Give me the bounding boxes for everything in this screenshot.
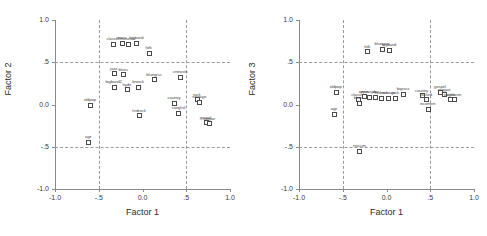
data-point-label: age bbox=[85, 134, 92, 139]
data-point bbox=[178, 75, 183, 80]
gridline-x-neg-half bbox=[99, 20, 100, 189]
x-axis-title-right: Factor 1 bbox=[299, 207, 474, 217]
data-point-label: folk bbox=[364, 44, 370, 49]
data-point bbox=[357, 101, 362, 106]
x-tick-1 bbox=[343, 189, 344, 192]
data-point bbox=[426, 107, 431, 112]
y-tick-0 bbox=[296, 20, 299, 21]
data-point-label: newage bbox=[192, 94, 206, 99]
y-ticklabel-0: 1.0 bbox=[265, 16, 293, 24]
y-ticklabel-0: 1.0 bbox=[21, 16, 49, 24]
plot-area-right: -1.0 -.5 0.0 .5 1.0 1.0 .5 0.0 -.5 -1.0 … bbox=[299, 20, 474, 189]
x-tick-0 bbox=[299, 189, 300, 192]
y-ticklabel-4: -1.0 bbox=[21, 185, 49, 193]
plot-area-left: -1.0 -.5 0.0 .5 1.0 1.0 .5 0.0 -.5 -1.0 … bbox=[55, 20, 230, 189]
scatter-panel-factor3: -1.0 -.5 0.0 .5 1.0 1.0 .5 0.0 -.5 -1.0 … bbox=[244, 0, 487, 236]
data-point bbox=[111, 42, 116, 47]
data-point-label: bigband2 bbox=[105, 79, 121, 84]
x-tick-1 bbox=[99, 189, 100, 192]
data-point-label: cntrwstn bbox=[173, 69, 188, 74]
y-axis-title-left: Factor 2 bbox=[3, 49, 13, 109]
data-point-label: hrdrock bbox=[132, 108, 145, 113]
x-tick-4 bbox=[474, 189, 475, 192]
data-point-label: incomert bbox=[420, 101, 435, 106]
data-point bbox=[365, 49, 370, 54]
data-point-label: hydn bbox=[122, 82, 131, 87]
y-ticklabel-3: -.5 bbox=[265, 143, 293, 151]
gridline-y-pos-half bbox=[299, 62, 474, 63]
data-point bbox=[207, 121, 212, 126]
data-point-label: bigrass bbox=[397, 86, 410, 91]
data-point bbox=[334, 90, 339, 95]
data-point-label: brwrck bbox=[132, 79, 144, 84]
x-tick-3 bbox=[186, 189, 187, 192]
x-tick-2 bbox=[143, 189, 144, 192]
data-point-label: conglstl bbox=[172, 105, 185, 110]
data-point bbox=[120, 41, 125, 46]
data-point bbox=[380, 47, 385, 52]
y-tick-2 bbox=[52, 105, 55, 106]
data-point bbox=[386, 96, 391, 101]
y-axis-spine bbox=[55, 20, 56, 189]
x-ticklabel-0: -1.0 bbox=[279, 194, 319, 202]
data-point bbox=[373, 95, 378, 100]
scatter-panel-factor2: -1.0 -.5 0.0 .5 1.0 1.0 .5 0.0 -.5 -1.0 … bbox=[0, 0, 243, 236]
data-point-label: jazz bbox=[110, 66, 117, 71]
y-axis-title-right: Factor 3 bbox=[247, 49, 257, 109]
y-tick-3 bbox=[52, 147, 55, 148]
x-ticklabel-3: .5 bbox=[166, 194, 206, 202]
data-point bbox=[367, 95, 372, 100]
figure-root: -1.0 -.5 0.0 .5 1.0 1.0 .5 0.0 -.5 -1.0 … bbox=[0, 0, 487, 236]
y-tick-2 bbox=[296, 105, 299, 106]
x-tick-2 bbox=[387, 189, 388, 192]
data-point bbox=[112, 71, 117, 76]
data-point-label: bigband bbox=[382, 42, 396, 47]
y-tick-0 bbox=[52, 20, 55, 21]
data-point bbox=[125, 87, 130, 92]
gridline-x-pos-half bbox=[186, 20, 187, 189]
y-ticklabel-3: -.5 bbox=[21, 143, 49, 151]
data-point-label: country bbox=[167, 95, 180, 100]
data-point bbox=[362, 94, 367, 99]
y-ticklabel-1: .5 bbox=[21, 58, 49, 66]
x-ticklabel-2: 0.0 bbox=[123, 194, 163, 202]
data-point bbox=[137, 113, 142, 118]
gridline-y-pos-half bbox=[55, 62, 230, 63]
y-tick-1 bbox=[296, 62, 299, 63]
x-tick-4 bbox=[230, 189, 231, 192]
data-point-label: oldpop bbox=[330, 84, 342, 89]
data-point bbox=[401, 92, 406, 97]
gridline-y-neg-half bbox=[299, 147, 474, 148]
x-tick-0 bbox=[55, 189, 56, 192]
data-point bbox=[126, 42, 131, 47]
x-ticklabel-2: 0.0 bbox=[367, 194, 407, 202]
data-point-label: cntrwstn bbox=[446, 92, 461, 97]
y-tick-1 bbox=[52, 62, 55, 63]
data-point-label: rocked bbox=[420, 92, 432, 97]
data-point-label: reggae bbox=[203, 116, 215, 121]
x-ticklabel-3: .5 bbox=[410, 194, 450, 202]
data-point-label: age bbox=[331, 106, 338, 111]
data-point bbox=[176, 111, 181, 116]
data-point bbox=[357, 149, 362, 154]
y-axis-spine bbox=[299, 20, 300, 189]
y-ticklabel-2: 0.0 bbox=[265, 101, 293, 109]
data-point bbox=[88, 103, 93, 108]
data-point bbox=[387, 48, 392, 53]
y-ticklabel-4: -1.0 bbox=[265, 185, 293, 193]
data-point bbox=[152, 77, 157, 82]
data-point-label: oldpop bbox=[84, 97, 96, 102]
data-point bbox=[379, 96, 384, 101]
x-ticklabel-1: -.5 bbox=[323, 194, 363, 202]
data-point-label: bigband bbox=[129, 35, 143, 40]
data-point bbox=[134, 41, 139, 46]
data-point bbox=[197, 100, 202, 105]
data-point bbox=[86, 140, 91, 145]
data-point bbox=[112, 85, 117, 90]
gridline-y-neg-half bbox=[55, 147, 230, 148]
x-axis-title-left: Factor 1 bbox=[55, 207, 230, 217]
y-ticklabel-2: 0.0 bbox=[21, 101, 49, 109]
data-point-label: folk bbox=[146, 45, 152, 50]
y-ticklabel-1: .5 bbox=[265, 58, 293, 66]
x-tick-3 bbox=[430, 189, 431, 192]
